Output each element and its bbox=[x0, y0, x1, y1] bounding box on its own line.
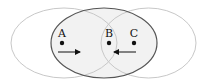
overlapping-ellipses-diagram: A B C bbox=[0, 0, 206, 82]
label-c: C bbox=[130, 27, 138, 40]
label-b: B bbox=[105, 27, 113, 40]
point-c-dot bbox=[132, 41, 136, 45]
point-a-dot bbox=[60, 41, 64, 45]
label-a: A bbox=[57, 27, 67, 40]
point-b-dot bbox=[107, 41, 111, 45]
